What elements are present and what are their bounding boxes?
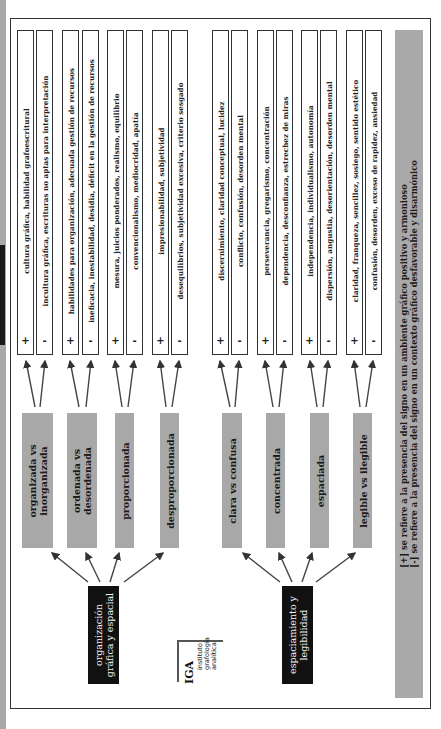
minus-sign: - <box>277 335 292 346</box>
root-label-line1: espaciamiento y <box>287 596 298 674</box>
trait-box-clara-plus: discernimiento, claridad conceptual, luc… <box>212 30 229 355</box>
trait-box-concentrada-minus: dependencia, desconfianza, estrechez de … <box>276 30 293 355</box>
plus-sign: + <box>347 335 362 346</box>
minus-sign: - <box>172 335 187 346</box>
category-label-line2: inorganizada <box>38 444 49 517</box>
plus-sign: + <box>213 335 228 346</box>
trait-box-legible-minus: confusión, desorden, exceso de rapidez, … <box>365 30 382 355</box>
legend-box: [+] se refiere a la presencia del signo … <box>395 30 423 698</box>
trait-text: convencionalismo, mediocridad, apatía <box>130 112 139 269</box>
trait-text: habilidades para organización, adecuada … <box>66 68 75 314</box>
plus-sign: + <box>302 335 317 346</box>
category-organizada-vs-inorganizada: organizada vsinorganizada <box>22 413 53 548</box>
trait-text: ineficacia, inestabilidad, desidia, défi… <box>86 59 95 323</box>
minus-sign: - <box>232 335 247 346</box>
trait-text: independencia, individualismo, autonomía <box>305 105 314 276</box>
category-concentrada: concentrada <box>266 413 285 548</box>
trait-text: incultura gráfica, escrituras no aptas p… <box>40 75 49 306</box>
trait-box-espaciada-plus: independencia, individualismo, autonomía… <box>301 30 318 355</box>
category-label: espaciada <box>314 454 325 507</box>
minus-sign: - <box>83 335 98 346</box>
category-desproporcionada: desproporcionada <box>160 413 179 548</box>
plus-sign: + <box>108 335 123 346</box>
trait-text: claridad, franqueza, sencillez, sosiego,… <box>350 80 359 302</box>
trait-box-concentrada-plus: perseverancia, gregarismo, concentración… <box>257 30 274 355</box>
category-label-line2: desordenada <box>82 447 93 515</box>
category-label-line1: organizada vs <box>27 444 38 517</box>
trait-text: mesura, juicios ponderados, realismo, eq… <box>111 93 120 288</box>
category-label: clara vs confusa <box>227 438 238 524</box>
category-proporcionada: proporcionada <box>115 413 134 548</box>
trait-box-proporcionada-plus: mesura, juicios ponderados, realismo, eq… <box>107 30 124 355</box>
category-legible-vs-ilegible: legible vs ilegible <box>353 413 372 548</box>
left-gray-edge <box>0 0 6 729</box>
trait-text: confusión, desorden, exceso de rapidez, … <box>369 92 378 291</box>
trait-text: conflicto, confusión, desorden mental <box>235 115 244 267</box>
minus-sign: - <box>127 335 142 346</box>
root-espaciamiento-legibilidad: espaciamiento ylegibilidad <box>282 586 313 684</box>
plus-sign: + <box>258 335 273 346</box>
logo-name: instituto grafología analítica <box>197 637 218 670</box>
minus-sign: - <box>321 335 336 346</box>
category-label: legible vs ilegible <box>357 434 368 528</box>
root-label-line2: gráfica y espacial <box>104 593 115 677</box>
category-ordenada-vs-desordenada: ordenada vsdesordenada <box>67 413 97 548</box>
trait-text: dispersión, angustia, desorientación, de… <box>324 81 333 300</box>
category-label: concentrada <box>270 447 281 513</box>
trait-text: cultura gráfica, habilidad grafoescritur… <box>21 108 30 273</box>
root-label-line2: legibilidad <box>298 596 309 674</box>
trait-text: impresionabilidad, subjetividad <box>156 127 165 254</box>
root-label-line1: organización <box>93 593 104 677</box>
plus-sign: + <box>18 335 33 346</box>
trait-box-desproporcionada-minus: desequilibrios, subjetividad excesiva, c… <box>171 30 188 355</box>
category-label-line1: ordenada vs <box>71 447 82 515</box>
trait-box-legible-plus: claridad, franqueza, sencillez, sosiego,… <box>346 30 363 355</box>
trait-box-organizada-plus: cultura gráfica, habilidad grafoescritur… <box>17 30 34 355</box>
iga-logo: IGA instituto grafología analítica <box>172 636 230 686</box>
minus-sign: - <box>37 335 52 346</box>
logo-mark: IGA <box>183 661 196 684</box>
trait-box-clara-minus: conflicto, confusión, desorden mental - <box>231 30 248 355</box>
logo-name-line3: analítica <box>211 637 218 670</box>
trait-text: perseverancia, gregarismo, concentración <box>261 106 270 276</box>
left-dark-edge <box>0 245 5 345</box>
trait-box-espaciada-minus: dispersión, angustia, desorientación, de… <box>320 30 337 355</box>
trait-text: discernimiento, claridad conceptual, luc… <box>216 101 225 280</box>
legend-plus-line: [+] se refiere a la presencia del signo … <box>399 160 409 568</box>
category-label: desproporcionada <box>164 433 175 529</box>
trait-text: desequilibrios, subjetividad excesiva, c… <box>175 83 184 300</box>
category-label: proporcionada <box>119 442 130 520</box>
trait-box-proporcionada-minus: convencionalismo, mediocridad, apatía - <box>126 30 143 355</box>
category-clara-vs-confusa: clara vs confusa <box>222 413 242 548</box>
legend-minus-line: [-] se refiere a la presencia del signo … <box>409 160 419 568</box>
plus-sign: + <box>63 335 78 346</box>
logo-rule-horizontal <box>177 642 179 682</box>
trait-box-ordenada-minus: ineficacia, inestabilidad, desidia, défi… <box>82 30 99 355</box>
trait-text: dependencia, desconfianza, estrechez de … <box>280 97 289 286</box>
category-espaciada: espaciada <box>310 413 329 548</box>
root-organizacion-grafica-espacial: organizacióngráfica y espacial <box>88 586 119 684</box>
plus-sign: + <box>153 335 168 346</box>
trait-box-ordenada-plus: habilidades para organización, adecuada … <box>62 30 79 355</box>
minus-sign: - <box>366 335 381 346</box>
trait-box-desproporcionada-plus: impresionabilidad, subjetividad + <box>152 30 169 355</box>
trait-box-organizada-minus: incultura gráfica, escrituras no aptas p… <box>36 30 53 355</box>
